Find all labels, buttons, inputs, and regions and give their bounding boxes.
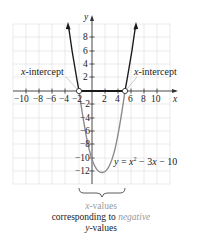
x-tick-label: −10 xyxy=(14,95,29,105)
y-tick-label: −12 xyxy=(75,167,90,177)
y-tick-label: −6 xyxy=(80,127,90,137)
y-tick-label: −10 xyxy=(75,154,90,164)
y-tick-label: 2 xyxy=(83,73,88,83)
curve-right-arrow-icon xyxy=(133,22,138,30)
x-tick-label: 2 xyxy=(102,95,107,105)
leader-right xyxy=(127,77,137,89)
y-tick-label: −2 xyxy=(80,100,90,110)
y-axis-arrow-icon xyxy=(90,15,94,21)
y-tick-label: −8 xyxy=(80,140,90,150)
x-intercept-left-marker xyxy=(76,88,81,93)
leader-left xyxy=(66,77,77,89)
caption-line-2: corresponding to negative xyxy=(0,212,202,223)
x-axis-label: x xyxy=(173,95,177,105)
intercept-text: -intercept xyxy=(25,66,63,77)
x-tick-label: −6 xyxy=(46,95,56,105)
caption-line-1: x-values xyxy=(0,201,202,212)
caption-negative: negative xyxy=(118,212,150,222)
curve-left-arrow-icon xyxy=(66,22,71,30)
x-tick-label: 4 xyxy=(115,95,120,105)
x-tick-label: 8 xyxy=(141,95,146,105)
caption-values: -values xyxy=(89,201,116,211)
equation-x: x xyxy=(152,156,156,167)
y-tick-label: 4 xyxy=(83,60,88,70)
x-axis-arrow-icon xyxy=(172,89,178,93)
x-tick-label: 6 xyxy=(128,95,133,105)
equation-label: y = x2 − 3x − 10 xyxy=(114,156,177,167)
y-axis-label: y xyxy=(84,13,88,23)
intercept-text: -intercept xyxy=(138,66,176,77)
y-tick-label: −4 xyxy=(80,114,90,124)
caption-corresponding: corresponding to xyxy=(52,212,119,222)
x-tick-label: −8 xyxy=(33,95,43,105)
equation-exponent: 2 xyxy=(134,156,137,162)
y-tick-label: 6 xyxy=(83,47,88,57)
caption-values: -values xyxy=(89,223,116,233)
y-tick-label: 8 xyxy=(83,33,88,43)
x-intercept-right-marker xyxy=(122,88,127,93)
equation-y: y xyxy=(114,156,118,167)
x-tick-label: −4 xyxy=(59,95,69,105)
brace-icon xyxy=(79,188,125,197)
x-intercept-right-label: x-intercept xyxy=(134,67,177,77)
caption-line-3: y-values xyxy=(0,223,202,234)
x-intercept-left-label: x-intercept xyxy=(21,67,64,77)
x-tick-label: 10 xyxy=(151,95,161,105)
